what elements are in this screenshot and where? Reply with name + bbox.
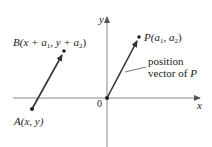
annotation-line-2-text: vector of [148, 67, 190, 79]
point-b-label: B(x + a1, y + a2) [13, 36, 87, 50]
point-p-dot [137, 35, 141, 39]
vector-diagram: y x 0 B(x + a1, y + a2) P(a1, a2) A(x, y… [0, 0, 212, 147]
vector-ab [32, 55, 62, 109]
origin-label: 0 [97, 98, 102, 109]
point-b-coords-pre: (x + a [20, 36, 47, 49]
point-p-label: P(a1, a2) [143, 31, 182, 45]
point-p-coords-post: ) [178, 31, 182, 44]
point-a-dot [30, 107, 34, 111]
annotation-line-1: position [148, 55, 184, 67]
point-p-coords-mid: , a [163, 31, 175, 43]
annotation-leader-line [125, 67, 146, 72]
point-b-coords-post: ) [83, 36, 87, 49]
x-axis-label: x [196, 99, 202, 111]
origin-dot [105, 96, 109, 100]
point-a-label: A(x, y) [13, 115, 44, 128]
y-axis-label: y [98, 13, 104, 25]
position-vector-p [107, 41, 137, 98]
point-b-coords-mid: , y + a [50, 36, 79, 48]
point-a-coords: (x, y) [21, 115, 44, 128]
annotation-line-2-var: P [189, 67, 197, 79]
annotation-line-2: vector of P [148, 67, 197, 79]
point-b-dot [62, 49, 66, 53]
